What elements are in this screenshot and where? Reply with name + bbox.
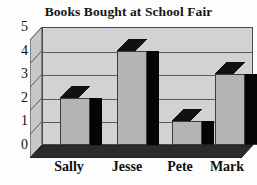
x-tick-label-mark: Mark [199, 159, 255, 176]
x-axis: Sally Jesse Pete Mark [30, 159, 253, 181]
bar-sally-top-face [60, 86, 90, 98]
y-tick-label-4: 4 [8, 44, 28, 58]
bar-pete[interactable] [172, 121, 202, 145]
bar-sally-front-face [60, 98, 90, 145]
bar-sally-side-face [90, 98, 102, 145]
bar-pete-top-face [172, 109, 202, 121]
bar-sally[interactable] [60, 98, 90, 145]
bar-mark-front-face [215, 74, 245, 145]
bar-pete-front-face [172, 121, 202, 145]
bar-mark[interactable] [215, 74, 245, 145]
bar-jesse-top-face [117, 39, 147, 51]
y-tick-label-0: 0 [8, 138, 28, 152]
category-axis-floor [30, 145, 253, 158]
chart-title: Books Bought at School Fair [0, 4, 257, 20]
bar-jesse-side-face [147, 51, 159, 145]
y-tick-label-5: 5 [8, 20, 28, 34]
bar-jesse[interactable] [117, 51, 147, 145]
bar-jesse-front-face [117, 51, 147, 145]
bars-layer [42, 27, 253, 158]
bar-mark-side-face [245, 74, 257, 145]
x-tick-label-jesse: Jesse [96, 159, 158, 176]
y-tick-label-1: 1 [8, 114, 28, 128]
bar-pete-side-face [202, 121, 214, 145]
y-tick-label-2: 2 [8, 91, 28, 105]
y-axis: 5 4 3 2 1 0 [8, 23, 28, 155]
x-tick-label-sally: Sally [38, 159, 100, 176]
y-tick-label-3: 3 [8, 67, 28, 81]
bar-mark-top-face [215, 62, 245, 74]
bar-chart: Books Bought at School Fair 5 4 3 2 1 0 [0, 0, 257, 185]
chart-plot-3d-scene [30, 27, 253, 158]
